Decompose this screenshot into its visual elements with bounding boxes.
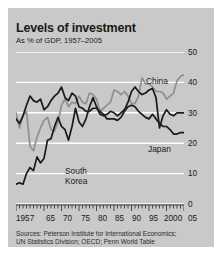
sources-line-2: UN Statistics Division; OECD; Penn World… bbox=[16, 238, 208, 246]
x-tick-65: 65 bbox=[46, 214, 55, 223]
series-label-china: China bbox=[146, 76, 168, 86]
x-tick-70: 70 bbox=[63, 214, 72, 223]
x-tick-2000: 2000 bbox=[164, 214, 182, 223]
chart-title: Levels of investment bbox=[16, 21, 136, 35]
plot-area bbox=[16, 52, 184, 204]
y-tick-20: 20 bbox=[188, 139, 197, 148]
x-tick-95: 95 bbox=[149, 214, 158, 223]
chart-svg bbox=[16, 52, 184, 204]
x-tick-05: 05 bbox=[188, 214, 197, 223]
x-tick-1957: 1957 bbox=[16, 214, 34, 223]
x-tick-75: 75 bbox=[81, 214, 90, 223]
sources-note: Sources: Peterson Institute for Internat… bbox=[16, 230, 208, 247]
series-label-japan: Japan bbox=[148, 144, 171, 154]
series-label-south-korea-line2: Korea bbox=[65, 176, 87, 186]
x-tick-85: 85 bbox=[115, 214, 124, 223]
x-tick-90: 90 bbox=[132, 214, 141, 223]
y-tick-10: 10 bbox=[188, 169, 197, 178]
y-tick-0: 0 bbox=[188, 200, 193, 209]
y-tick-40: 40 bbox=[188, 78, 197, 87]
sources-line-1: Sources: Peterson Institute for Internat… bbox=[16, 230, 208, 238]
x-tick-80: 80 bbox=[98, 214, 107, 223]
series-label-south-korea: South Korea bbox=[65, 166, 87, 186]
chart-subtitle: As % of GDP, 1957–2005 bbox=[16, 36, 102, 45]
y-tick-30: 30 bbox=[188, 109, 197, 118]
series-label-south-korea-line1: South bbox=[65, 166, 87, 176]
y-tick-50: 50 bbox=[188, 48, 197, 57]
x-axis-ticks bbox=[16, 204, 184, 212]
chart-card: Levels of investment As % of GDP, 1957–2… bbox=[8, 8, 214, 247]
